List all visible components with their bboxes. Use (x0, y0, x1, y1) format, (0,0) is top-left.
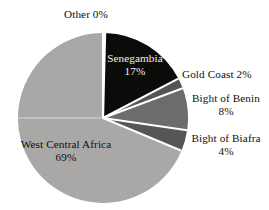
slice-label-bight-of-biafra-value: 4% (184, 145, 268, 158)
slice-label-west-central-africa: West Central Africa 69% (12, 138, 120, 163)
slice-label-senegambia: Senegambia 17% (96, 52, 174, 77)
slice-label-senegambia-value: 17% (96, 65, 174, 78)
slice-label-bight-of-benin-value: 8% (186, 105, 266, 118)
slice-label-west-central-africa-value: 69% (12, 151, 120, 164)
slice-label-gold-coast: Gold Coast 2% (182, 68, 252, 81)
slice-label-other-text: Other 0% (64, 8, 108, 21)
slice-label-bight-of-benin: Bight of Benin 8% (186, 92, 266, 117)
slice-label-bight-of-biafra-name: Bight of Biafra (184, 132, 268, 145)
slice-label-other: Other 0% (64, 8, 108, 21)
slice-label-gold-coast-text: Gold Coast 2% (182, 68, 252, 81)
slice-label-bight-of-benin-name: Bight of Benin (186, 92, 266, 105)
pie-chart-figure: Other 0% Senegambia 17% Gold Coast 2% Bi… (0, 0, 269, 210)
slice-label-west-central-africa-name: West Central Africa (12, 138, 120, 151)
slice-label-senegambia-name: Senegambia (96, 52, 174, 65)
slice-label-bight-of-biafra: Bight of Biafra 4% (184, 132, 268, 157)
